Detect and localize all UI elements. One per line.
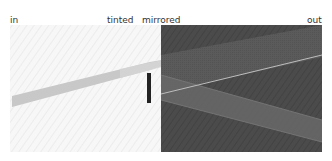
input-panel — [10, 25, 161, 152]
optics-diagram — [0, 0, 332, 161]
mirror-bar — [147, 73, 151, 103]
